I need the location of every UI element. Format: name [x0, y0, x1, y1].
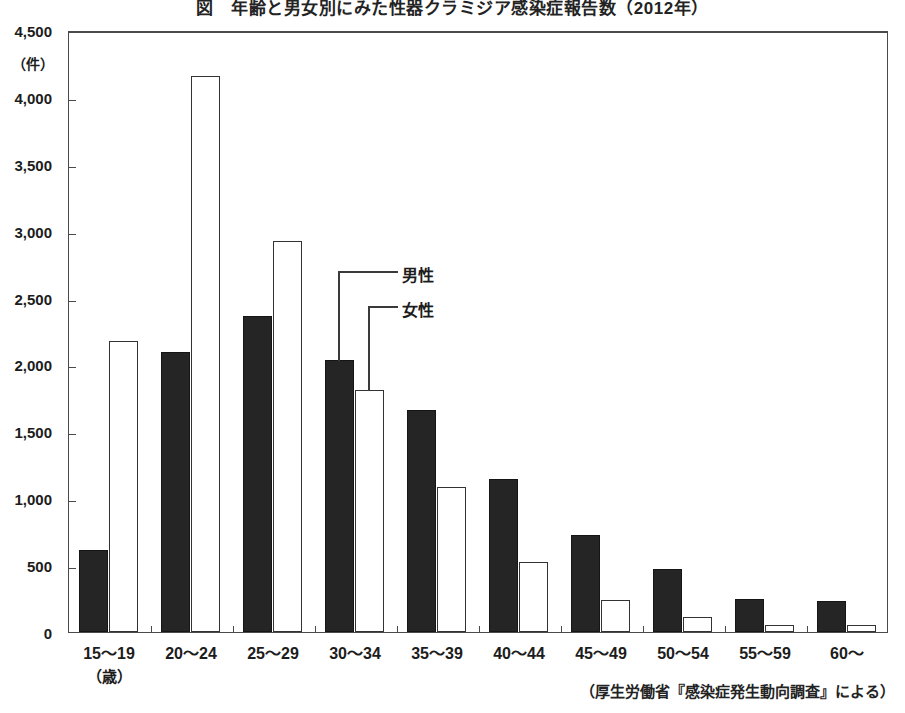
- bar-female-45〜49: [601, 600, 630, 632]
- bar-female-40〜44: [519, 562, 548, 632]
- y-tick-label: 500: [27, 559, 52, 574]
- x-tick-label: 30〜34: [329, 640, 381, 664]
- x-tick-mark: [151, 626, 152, 632]
- y-tick-label: 0: [44, 626, 52, 641]
- x-tick-label: 60〜: [830, 640, 864, 664]
- y-tick-label: 2,000: [14, 358, 52, 373]
- bar-female-60〜: [847, 625, 876, 632]
- x-axis-unit-label: （歳）: [87, 665, 132, 686]
- y-tick-label: 2,500: [14, 291, 52, 306]
- callout-leader-vertical: [338, 271, 340, 361]
- bar-male-15〜19: [79, 550, 108, 632]
- source-note: （厚生労働省『感染症発生動向調査』による）: [580, 680, 895, 701]
- x-tick-label: 50〜54: [657, 640, 709, 664]
- bar-male-45〜49: [571, 535, 600, 632]
- y-tick-mark: [69, 434, 76, 435]
- x-tick-mark: [807, 626, 808, 632]
- bar-male-25〜29: [243, 316, 272, 632]
- y-tick-label: 4,500: [14, 24, 52, 39]
- callout-leader-horizontal: [338, 271, 398, 273]
- y-axis: （件） 05001,0001,5002,0002,5003,0003,5004,…: [0, 0, 68, 713]
- y-tick-label: 4,000: [14, 90, 52, 105]
- bar-female-35〜39: [437, 487, 466, 632]
- x-tick-label: 45〜49: [575, 640, 627, 664]
- bar-male-55〜59: [735, 599, 764, 632]
- y-axis-unit-label: （件）: [12, 57, 54, 71]
- series-label-female: 女性: [402, 297, 434, 321]
- y-tick-mark: [69, 568, 76, 569]
- y-tick-label: 3,000: [14, 224, 52, 239]
- y-tick-label: 3,500: [14, 157, 52, 172]
- x-tick-mark: [397, 626, 398, 632]
- bar-male-20〜24: [161, 352, 190, 632]
- bar-female-30〜34: [355, 390, 384, 632]
- bar-female-15〜19: [109, 341, 138, 632]
- bar-male-50〜54: [653, 569, 682, 632]
- bar-female-25〜29: [273, 241, 302, 632]
- y-tick-mark: [69, 501, 76, 502]
- x-tick-mark: [479, 626, 480, 632]
- x-tick-label: 55〜59: [739, 640, 791, 664]
- y-tick-mark: [69, 234, 76, 235]
- bar-male-60〜: [817, 601, 846, 632]
- chart-title: 図 年齢と男女別にみた性器クラミジア感染症報告数（2012年）: [0, 0, 905, 19]
- x-tick-label: 25〜29: [247, 640, 299, 664]
- y-tick-mark: [69, 301, 76, 302]
- bar-female-55〜59: [765, 625, 794, 632]
- x-tick-mark: [643, 626, 644, 632]
- y-tick-mark: [69, 100, 76, 101]
- y-tick-label: 1,500: [14, 425, 52, 440]
- bar-female-20〜24: [191, 76, 220, 633]
- callout-leader-horizontal: [368, 306, 398, 308]
- x-tick-mark: [561, 626, 562, 632]
- y-tick-mark: [69, 367, 76, 368]
- x-tick-label: 15〜19: [83, 640, 135, 664]
- callout-leader-vertical: [368, 306, 370, 391]
- x-tick-mark: [233, 626, 234, 632]
- x-tick-mark: [315, 626, 316, 632]
- x-tick-label: 35〜39: [411, 640, 463, 664]
- series-label-male: 男性: [402, 262, 434, 286]
- bar-male-30〜34: [325, 360, 354, 632]
- bar-male-40〜44: [489, 479, 518, 632]
- x-tick-label: 40〜44: [493, 640, 545, 664]
- bar-male-35〜39: [407, 410, 436, 632]
- bar-female-50〜54: [683, 617, 712, 632]
- x-tick-label: 20〜24: [165, 640, 217, 664]
- x-tick-mark: [725, 626, 726, 632]
- plot-area: [68, 31, 888, 633]
- y-tick-label: 1,000: [14, 492, 52, 507]
- y-tick-mark: [69, 167, 76, 168]
